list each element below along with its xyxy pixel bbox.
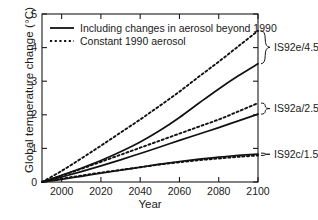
- scenario-label: IS92c/1.5: [274, 148, 318, 160]
- y-tick-label: 2: [31, 108, 37, 120]
- scenario-brace: [261, 103, 270, 114]
- data-curves: [42, 31, 258, 182]
- curve-is92e-solid: [42, 64, 258, 182]
- scenario-label: IS92a/2.5: [274, 102, 318, 114]
- legend-label-dashed: Constant 1990 aerosol: [80, 35, 186, 47]
- y-tick-label: 5: [31, 8, 37, 20]
- scenario-label: IS92e/4.5: [274, 41, 318, 53]
- x-tick-label: 2080: [207, 185, 231, 197]
- x-tick-label: 2020: [89, 185, 113, 197]
- x-tick-label: 2040: [129, 185, 153, 197]
- scenario-brace: [261, 31, 270, 64]
- scenario-annotations: IS92e/4.5IS92a/2.5IS92c/1.5: [261, 31, 318, 160]
- line-chart: 012345 200020202040206020802100 Includin…: [0, 0, 318, 220]
- curve-is92e-dashed: [42, 31, 258, 182]
- y-tick-label: 0: [31, 176, 37, 188]
- x-tick-label: 2060: [168, 185, 192, 197]
- x-tick-label: 2100: [246, 185, 270, 197]
- y-tick-label: 3: [31, 75, 37, 87]
- y-tick-label: 1: [31, 142, 37, 154]
- scenario-brace: [261, 153, 270, 155]
- figure-container: Global temperature change (°C) Year 0123…: [0, 0, 318, 220]
- y-tick-label: 4: [31, 41, 37, 53]
- x-tick-label: 2000: [50, 185, 74, 197]
- legend-label-solid: Including changes in aerosol beyond 1990: [80, 22, 277, 34]
